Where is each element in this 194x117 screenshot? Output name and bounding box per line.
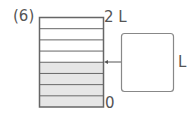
filled-segment (40, 96, 104, 107)
answer-box[interactable] (122, 34, 174, 92)
max-capacity-label: 2 L (104, 10, 127, 25)
filled-segment (40, 62, 104, 73)
filled-segment (40, 73, 104, 84)
measuring-container-diagram (0, 0, 194, 117)
answer-unit-label: L (178, 55, 186, 70)
container-segments (40, 18, 104, 108)
empty-segment (40, 18, 104, 29)
zero-label: 0 (105, 96, 115, 111)
filled-segment (40, 85, 104, 96)
arrow-head (104, 60, 108, 64)
empty-segment (40, 40, 104, 51)
empty-segment (40, 51, 104, 62)
empty-segment (40, 29, 104, 40)
